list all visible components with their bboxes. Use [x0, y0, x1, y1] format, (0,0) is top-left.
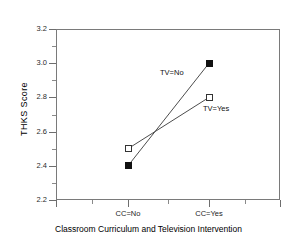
series-line-tv-no: [128, 63, 209, 166]
chart-figure: THKS Score 2.22.42.62.83.03.2 CC=NoCC=Ye…: [0, 0, 297, 242]
series-line-tv-yes: [128, 97, 209, 148]
series-lines: [0, 0, 297, 242]
x-axis-title: Classroom Curriculum and Television Inte…: [0, 224, 297, 234]
